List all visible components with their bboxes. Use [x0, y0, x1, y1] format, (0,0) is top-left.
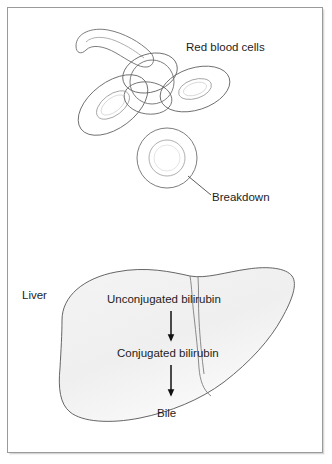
label-bile: Bile — [157, 407, 176, 419]
label-breakdown: Breakdown — [212, 191, 270, 203]
liver-outline — [59, 268, 294, 422]
red-blood-cell-cluster — [67, 29, 236, 188]
rbc-edge-on-curved-icon — [76, 29, 154, 67]
label-unconjugated-bilirubin: Unconjugated bilirubin — [107, 293, 221, 305]
bilirubin-metabolism-diagram: Red blood cells Breakdown Liver Unconjug… — [0, 0, 332, 464]
rbc-back-upper-icon — [117, 46, 182, 99]
breakdown-leader-line — [188, 176, 211, 195]
rbc-tilted-left-icon — [67, 63, 159, 148]
label-conjugated-bilirubin: Conjugated bilirubin — [117, 347, 219, 359]
liver-illustration — [59, 268, 294, 422]
label-red-blood-cells: Red blood cells — [186, 41, 265, 53]
rbc-isolated-breakdown-icon — [137, 128, 197, 188]
label-liver: Liver — [22, 289, 47, 301]
figure-root: Red blood cells Breakdown Liver Unconjug… — [0, 0, 332, 464]
